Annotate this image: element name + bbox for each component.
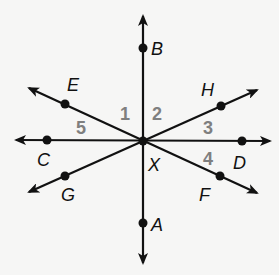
point-label-d: D bbox=[233, 153, 246, 173]
angle-label-3: 3 bbox=[203, 118, 213, 138]
point-label-e: E bbox=[67, 75, 80, 95]
intersecting-lines-diagram: BACDEFGHX 12345 bbox=[0, 0, 279, 275]
point-f bbox=[216, 172, 225, 181]
point-b bbox=[139, 44, 148, 53]
angle-label-5: 5 bbox=[76, 118, 86, 138]
angle-labels-group: 12345 bbox=[76, 104, 213, 169]
point-x bbox=[139, 137, 148, 146]
point-d bbox=[238, 137, 247, 146]
point-h bbox=[217, 102, 226, 111]
point-g bbox=[61, 172, 70, 181]
point-label-g: G bbox=[61, 185, 75, 205]
center-point bbox=[139, 137, 148, 146]
point-c bbox=[43, 136, 52, 145]
angle-label-4: 4 bbox=[203, 149, 213, 169]
point-label-b: B bbox=[151, 39, 163, 59]
point-label-h: H bbox=[201, 80, 215, 100]
point-label-c: C bbox=[37, 150, 51, 170]
angle-label-2: 2 bbox=[152, 104, 162, 124]
point-e bbox=[61, 100, 70, 109]
point-label-x: X bbox=[147, 155, 161, 175]
point-a bbox=[139, 219, 148, 228]
angle-label-1: 1 bbox=[120, 104, 130, 124]
point-label-a: A bbox=[150, 215, 163, 235]
point-label-f: F bbox=[199, 185, 211, 205]
